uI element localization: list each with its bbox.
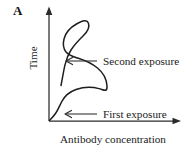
y-axis-arrowhead-icon — [46, 7, 53, 16]
x-axis-title: Antibody concentration — [34, 133, 192, 146]
annotation-second-exposure: Second exposure — [103, 55, 179, 67]
x-axis-arrowhead-icon — [173, 118, 182, 124]
figure-panel-a: A Second exposure First exposure Time An… — [0, 0, 196, 155]
antibody-response-curve — [50, 21, 108, 121]
annotation-first-exposure: First exposure — [103, 108, 167, 120]
y-axis-title: Time — [27, 28, 39, 88]
